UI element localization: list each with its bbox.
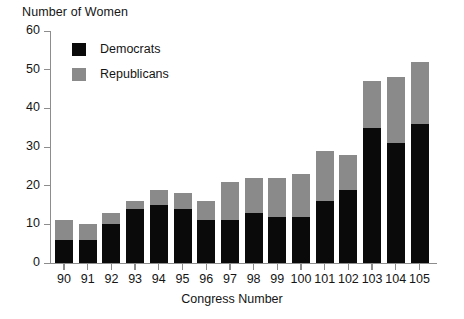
x-tick [253, 264, 254, 270]
x-tick [63, 264, 64, 270]
bar-segment-democrats [339, 190, 357, 263]
bar-segment-democrats [292, 217, 310, 263]
legend-swatch-republicans [72, 68, 86, 81]
y-tick-label: 60 [0, 23, 48, 37]
bar-segment-republicans [150, 190, 168, 205]
bar-congress-97 [221, 182, 239, 263]
bar-segment-democrats [363, 128, 381, 263]
y-tick-label: 0 [0, 255, 48, 269]
bar-segment-democrats [55, 240, 73, 263]
y-tick-label: 50 [0, 62, 48, 76]
bar-segment-democrats [411, 124, 429, 263]
bar-segment-republicans [126, 201, 144, 209]
bar-segment-republicans [245, 178, 263, 213]
bar-segment-democrats [102, 224, 120, 263]
bar-segment-democrats [245, 213, 263, 263]
bar-segment-republicans [316, 151, 334, 201]
bar-segment-republicans [221, 182, 239, 221]
y-tick-label: 20 [0, 178, 48, 192]
bar-segment-democrats [126, 209, 144, 263]
x-tick [206, 264, 207, 270]
bar-segment-democrats [268, 217, 286, 263]
legend-swatch-democrats [72, 43, 86, 56]
x-tick [277, 264, 278, 270]
bar-segment-republicans [363, 81, 381, 127]
bar-congress-104 [387, 77, 405, 263]
bar-congress-98 [245, 178, 263, 263]
bar-segment-democrats [79, 240, 97, 263]
bar-segment-republicans [411, 62, 429, 124]
bar-congress-94 [150, 190, 168, 263]
x-tick [324, 264, 325, 270]
y-tick-label: 40 [0, 100, 48, 114]
x-tick [300, 264, 301, 270]
y-axis-title: Number of Women [22, 5, 128, 19]
x-tick [134, 264, 135, 270]
bar-congress-92 [102, 213, 120, 263]
bar-segment-democrats [387, 143, 405, 263]
y-tick-label: 30 [0, 139, 48, 153]
bar-segment-democrats [197, 220, 215, 263]
x-tick [371, 264, 372, 270]
bar-segment-republicans [102, 213, 120, 225]
bar-segment-republicans [55, 220, 73, 239]
x-tick [182, 264, 183, 270]
x-tick [158, 264, 159, 270]
bar-congress-101 [316, 151, 334, 263]
y-tick-label: 10 [0, 216, 48, 230]
bar-segment-republicans [79, 224, 97, 239]
bar-segment-democrats [316, 201, 334, 263]
x-tick-label: 105 [405, 272, 435, 286]
x-tick [395, 264, 396, 270]
x-tick [111, 264, 112, 270]
x-axis-line [50, 263, 437, 264]
bar-segment-republicans [292, 174, 310, 217]
bar-segment-democrats [174, 209, 192, 263]
bar-segment-republicans [174, 193, 192, 208]
bar-congress-93 [126, 201, 144, 263]
bar-congress-102 [339, 155, 357, 263]
legend-label-republicans: Republicans [100, 65, 169, 83]
x-tick [229, 264, 230, 270]
bar-segment-republicans [387, 77, 405, 143]
bar-congress-96 [197, 201, 215, 263]
bar-congress-91 [79, 224, 97, 263]
legend-label-democrats: Democrats [100, 40, 160, 58]
bar-segment-republicans [339, 155, 357, 190]
stacked-bar-chart: Number of Women 0102030405060 9091929394… [0, 0, 464, 319]
x-tick [348, 264, 349, 270]
bar-congress-100 [292, 174, 310, 263]
x-axis-title: Congress Number [0, 292, 464, 306]
bar-congress-90 [55, 220, 73, 263]
x-tick [419, 264, 420, 270]
x-tick [87, 264, 88, 270]
bar-congress-103 [363, 81, 381, 263]
bar-segment-republicans [268, 178, 286, 217]
bar-congress-95 [174, 193, 192, 263]
bar-congress-105 [411, 62, 429, 263]
bar-segment-republicans [197, 201, 215, 220]
bar-segment-democrats [221, 220, 239, 263]
bar-congress-99 [268, 178, 286, 263]
bar-segment-democrats [150, 205, 168, 263]
